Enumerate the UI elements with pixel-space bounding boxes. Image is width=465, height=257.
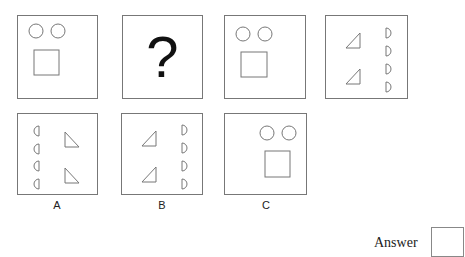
sequence-panel-1 — [17, 15, 98, 99]
sequence-panel-3 — [224, 15, 306, 99]
sequence-panel-4 — [325, 15, 408, 99]
circles-square-figure — [18, 16, 99, 100]
question-mark: ? — [123, 16, 202, 98]
option-b-label: B — [152, 199, 172, 211]
triangles-half-circles-figure — [122, 114, 204, 196]
triangles-half-circles-figure — [326, 16, 409, 100]
answer-label: Answer — [374, 235, 418, 251]
half-circles-triangles-figure — [18, 114, 99, 196]
option-a-panel[interactable] — [17, 113, 98, 195]
option-c-panel[interactable] — [224, 113, 307, 195]
answer-input-box[interactable] — [431, 227, 464, 257]
circles-square-figure — [225, 114, 308, 196]
option-b-panel[interactable] — [121, 113, 203, 195]
option-a-label: A — [47, 199, 67, 211]
option-c-label: C — [256, 199, 276, 211]
circles-square-figure — [225, 16, 307, 100]
sequence-panel-2-unknown: ? — [122, 15, 203, 99]
